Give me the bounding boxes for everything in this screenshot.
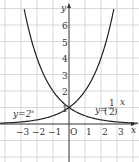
svg-text:3: 3 [118, 127, 124, 137]
label-2-power-x: y=2x [12, 108, 34, 119]
y-tick-labels: 123456 [62, 21, 68, 114]
svg-text:3: 3 [62, 71, 68, 81]
svg-text:5: 5 [62, 38, 68, 48]
svg-text:−3: −3 [16, 127, 30, 137]
svg-text:x: x [120, 97, 125, 107]
svg-text:1: 1 [86, 127, 92, 137]
svg-text:1: 1 [62, 104, 68, 114]
svg-text:2: 2 [62, 87, 68, 97]
svg-text:4: 4 [62, 54, 68, 64]
svg-text:): ) [114, 106, 118, 116]
exponential-graph: x y O −3−2−1123 123456 y=2x y= ( 1 2 ) x [0, 0, 139, 162]
y-axis-label: y [60, 3, 67, 13]
svg-text:(: ( [104, 106, 108, 116]
svg-text:2: 2 [102, 127, 108, 137]
x-axis-label: x [131, 125, 136, 135]
svg-text:−2: −2 [32, 127, 45, 137]
svg-text:−1: −1 [48, 127, 61, 137]
svg-text:6: 6 [62, 21, 68, 31]
label-half-power-x: y= ( 1 2 ) x [94, 97, 125, 117]
y-axis-arrow-icon [67, 3, 71, 8]
origin-label: O [70, 127, 77, 137]
grid [0, 0, 139, 162]
